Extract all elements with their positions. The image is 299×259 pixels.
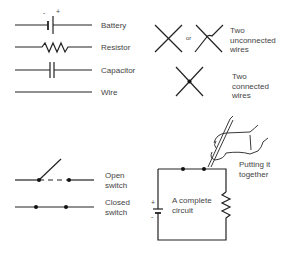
circuit-battery-minus: -: [151, 212, 153, 222]
battery-label: Battery: [101, 21, 126, 31]
unconnected-wires-hop: [195, 25, 223, 52]
closed-switch-label: Closed switch: [105, 198, 130, 217]
battery-symbol: [15, 16, 92, 34]
battery-minus-sign: -: [43, 8, 45, 18]
putting-it-together-caption: Putting it together: [239, 160, 270, 179]
resistor-symbol: [15, 43, 92, 52]
circuit-battery-plus: +: [151, 198, 155, 208]
connected-wires-label: Two connected wires: [232, 72, 269, 101]
unconnected-wires-x: [155, 25, 182, 52]
capacitor-label: Capacitor: [101, 66, 135, 76]
open-switch-symbol: [15, 159, 94, 180]
battery-plus-sign: +: [56, 7, 60, 17]
unconnected-wires-label: Two unconnected wires: [230, 26, 276, 55]
complete-circuit-label: A complete circuit: [172, 196, 212, 215]
resistor-label: Resistor: [101, 43, 130, 53]
wire-label: Wire: [101, 88, 117, 98]
or-label: or: [186, 34, 191, 44]
open-switch-label: Open switch: [105, 171, 127, 190]
capacitor-symbol: [15, 62, 92, 78]
